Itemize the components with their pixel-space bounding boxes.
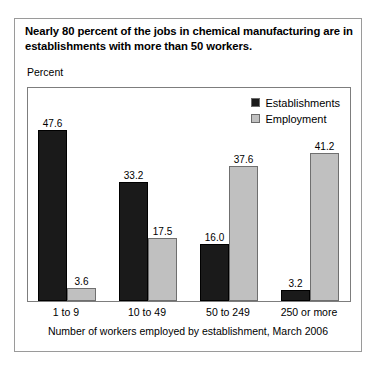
bar-value-label: 37.6	[234, 154, 253, 165]
bar-value-label: 41.2	[315, 141, 334, 152]
chart-figure: Nearly 80 percent of the jobs in chemica…	[14, 18, 362, 352]
plot-area: Establishments Employment 47.63.633.217.…	[27, 87, 351, 302]
bar-series-container: 47.63.633.217.516.037.63.241.2	[28, 88, 350, 301]
bar-establishments-3: 3.2	[281, 290, 310, 301]
category-axis: 1 to 910 to 4950 to 249250 or more	[27, 306, 351, 322]
bar-value-label: 3.6	[75, 276, 89, 287]
bar-employment-0: 3.6	[67, 288, 96, 301]
category-label-1: 10 to 49	[128, 306, 166, 318]
bar-value-label: 33.2	[124, 170, 143, 181]
bar-value-label: 3.2	[289, 278, 303, 289]
bar-establishments-1: 33.2	[119, 182, 148, 301]
bar-employment-3: 41.2	[310, 153, 339, 301]
bar-group: 3.241.2	[271, 88, 352, 301]
bar-value-label: 17.5	[153, 226, 172, 237]
bar-employment-1: 17.5	[148, 238, 177, 301]
chart-caption: Number of workers employed by establishm…	[15, 325, 361, 337]
bar-establishments-2: 16.0	[200, 244, 229, 301]
category-label-3: 250 or more	[281, 306, 338, 318]
bar-group: 16.037.6	[190, 88, 271, 301]
bar-employment-2: 37.6	[229, 166, 258, 301]
category-label-0: 1 to 9	[53, 306, 79, 318]
bar-establishments-0: 47.6	[38, 130, 67, 301]
bar-value-label: 47.6	[43, 118, 62, 129]
chart-title: Nearly 80 percent of the jobs in chemica…	[25, 24, 353, 54]
bar-value-label: 16.0	[205, 232, 224, 243]
category-label-2: 50 to 249	[206, 306, 250, 318]
bar-group: 47.63.6	[28, 88, 109, 301]
y-axis-label: Percent	[27, 66, 63, 78]
bar-group: 33.217.5	[109, 88, 190, 301]
